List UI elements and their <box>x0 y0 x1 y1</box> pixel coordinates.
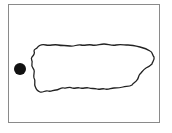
map-canvas <box>0 0 172 133</box>
location-marker-dot <box>14 63 26 75</box>
island-outline <box>31 44 154 92</box>
